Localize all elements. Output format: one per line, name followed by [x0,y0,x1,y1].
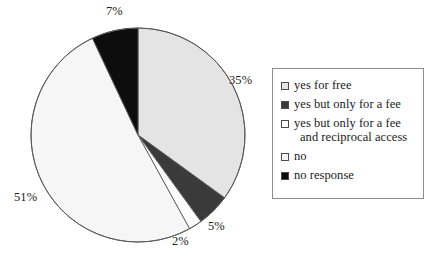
slice-value-label-no-response: 7% [106,4,123,19]
pie-chart-figure: 35% 5% 2% 51% 7% yes for freeyes but onl… [0,0,442,263]
legend-item[interactable]: yes but only for a fee [281,97,417,111]
legend-item-label-line2: and reciprocal access [294,130,407,144]
legend-item-label: yes but only for a fee [294,97,401,111]
legend-swatch-icon [281,82,289,90]
legend-item[interactable]: yes for free [281,78,417,92]
legend-item-label: no response [294,168,354,182]
legend-item[interactable]: yes but only for a feeand reciprocal acc… [281,116,417,144]
pie-svg [0,0,270,263]
slice-value-label-no: 51% [14,190,37,205]
legend-item-label: no [294,149,307,163]
legend-swatch-icon [281,101,289,109]
legend-swatch-icon [281,120,289,128]
slice-value-label-yes-fee-reciprocal: 2% [172,234,189,249]
pie-slices-group [31,28,245,242]
slice-value-label-yes-for-free: 35% [229,73,252,88]
chart-legend: yes for freeyes but only for a feeyes bu… [272,68,424,199]
legend-item[interactable]: no [281,149,417,163]
legend-swatch-icon [281,153,289,161]
legend-swatch-icon [281,172,289,180]
legend-item-label: yes for free [294,78,352,92]
slice-value-label-yes-fee: 5% [208,219,225,234]
legend-item-label: yes but only for a feeand reciprocal acc… [294,116,407,144]
pie-plot-area: 35% 5% 2% 51% 7% [0,0,270,263]
legend-item[interactable]: no response [281,168,417,182]
